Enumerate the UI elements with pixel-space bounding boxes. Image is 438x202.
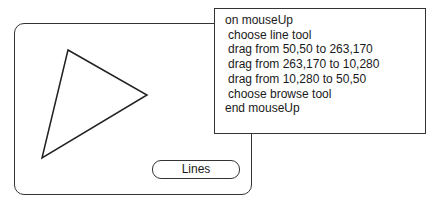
script-line: on mouseUp [225,13,425,28]
script-line: end mouseUp [225,101,425,116]
script-line: drag from 263,170 to 10,280 [225,57,425,72]
script-line: drag from 50,50 to 263,170 [225,42,425,57]
script-line: drag from 10,280 to 50,50 [225,72,425,87]
lines-button[interactable]: Lines [152,160,240,179]
script-line: choose line tool [225,28,425,43]
script-editor[interactable]: on mouseUp choose line tool drag from 50… [214,8,426,134]
script-line: choose browse tool [225,87,425,102]
